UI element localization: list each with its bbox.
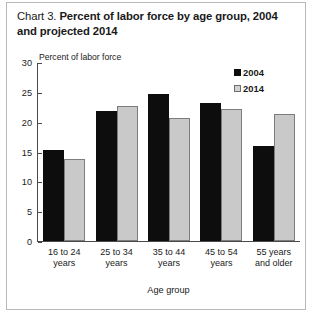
legend-item[interactable]: 2004 <box>234 66 264 79</box>
bar[interactable] <box>117 106 138 241</box>
x-axis-category-label-line: 16 to 24 <box>38 247 90 258</box>
y-axis-tick-label: 25 <box>22 88 32 98</box>
bar[interactable] <box>96 111 117 241</box>
bar[interactable] <box>253 146 274 241</box>
bar-group <box>38 63 90 241</box>
y-axis-title: Percent of labor force <box>39 52 121 62</box>
x-axis-category-label-line: 55 years <box>248 247 300 258</box>
legend-label: 2014 <box>243 83 264 94</box>
legend-swatch <box>234 69 241 76</box>
y-axis-tick-label: 15 <box>22 148 32 158</box>
bar[interactable] <box>200 103 221 241</box>
y-axis-tick-label: 0 <box>27 237 32 247</box>
legend-label: 2004 <box>243 67 264 78</box>
x-axis-line <box>37 241 300 242</box>
y-axis-tick-label: 20 <box>22 118 32 128</box>
bar[interactable] <box>221 109 242 241</box>
x-axis-category-label-line: years <box>38 258 90 269</box>
chart-title: Chart 3. Percent of labor force by age g… <box>17 9 293 38</box>
x-axis-category-label-line: years <box>195 258 247 269</box>
chart-legend: 20042014 <box>234 66 264 98</box>
y-axis-tick-label: 30 <box>22 58 32 68</box>
x-axis-category-label-line: 35 to 44 <box>143 247 195 258</box>
x-axis-category-label-line: years <box>143 258 195 269</box>
x-axis-category-label: 35 to 44years <box>143 247 195 270</box>
y-axis-tick-mark <box>38 242 42 243</box>
chart-card: Chart 3. Percent of labor force by age g… <box>0 0 312 316</box>
x-axis-category-label-line: 45 to 54 <box>195 247 247 258</box>
bar[interactable] <box>43 150 64 241</box>
legend-item[interactable]: 2014 <box>234 82 264 95</box>
bar-group <box>143 63 195 241</box>
x-axis-category-label: 25 to 34years <box>90 247 142 270</box>
bar[interactable] <box>64 159 85 241</box>
bar[interactable] <box>169 118 190 241</box>
x-axis-title: Age group <box>37 285 300 295</box>
y-axis-tick-label: 10 <box>22 177 32 187</box>
x-axis-category-label: 16 to 24years <box>38 247 90 270</box>
x-axis-category-label-line: years <box>90 258 142 269</box>
bar[interactable] <box>148 94 169 241</box>
bar-group <box>90 63 142 241</box>
x-axis-category-label-line: and older <box>248 258 300 269</box>
chart-number-label: Chart 3. <box>17 10 56 22</box>
x-axis-category-labels: 16 to 24years25 to 34years35 to 44years4… <box>37 247 300 279</box>
chart-title-text: Percent of labor force by age group, 200… <box>17 10 278 37</box>
x-axis-category-label-line: 25 to 34 <box>90 247 142 258</box>
x-axis-category-label: 55 yearsand older <box>248 247 300 270</box>
legend-swatch <box>234 85 241 92</box>
y-axis-tick-label: 5 <box>27 207 32 217</box>
x-axis-category-label: 45 to 54years <box>195 247 247 270</box>
bar[interactable] <box>274 114 295 241</box>
